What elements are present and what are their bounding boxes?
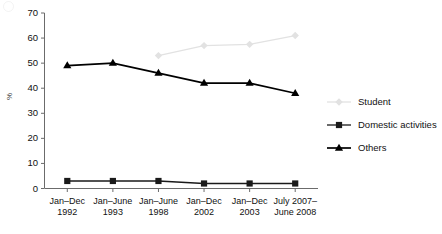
- square-marker-icon: [201, 180, 207, 186]
- legend-item-student[interactable]: Student: [326, 90, 438, 113]
- y-tick-label: 60: [14, 33, 38, 43]
- legend-swatch: [326, 95, 352, 109]
- x-tick-label: July 2007–June 2008: [264, 196, 326, 218]
- diamond-marker-icon: [335, 98, 342, 105]
- y-tick-label: 70: [14, 8, 38, 18]
- y-tick-label: 20: [14, 133, 38, 143]
- square-marker-icon: [110, 178, 116, 184]
- diamond-marker-icon: [155, 52, 162, 59]
- series-student: [155, 32, 299, 59]
- square-marker-icon: [336, 121, 342, 127]
- legend-swatch: [326, 118, 352, 132]
- y-tick-label: 10: [14, 158, 38, 168]
- y-tick-label: 30: [14, 108, 38, 118]
- chart-figure: % 010203040506070 Jan–Dec1992Jan–June199…: [0, 0, 442, 234]
- chart-legend: StudentDomestic activitiesOthers: [326, 90, 438, 159]
- legend-item-domestic-activities[interactable]: Domestic activities: [326, 113, 438, 136]
- y-tick-label: 50: [14, 58, 38, 68]
- diamond-marker-icon: [292, 32, 299, 39]
- x-tick-label-line2: June 2008: [264, 207, 326, 218]
- series-line: [67, 181, 295, 184]
- y-axis-ticks: [41, 13, 45, 189]
- square-marker-icon: [155, 178, 161, 184]
- y-tick-label: 0: [14, 184, 38, 194]
- square-marker-icon: [64, 178, 70, 184]
- series-domestic-activities: [64, 178, 298, 187]
- legend-item-others[interactable]: Others: [326, 136, 438, 159]
- x-axis-ticks: [67, 189, 295, 193]
- legend-label: Domestic activities: [358, 119, 437, 130]
- series-others: [63, 59, 299, 96]
- legend-label: Others: [358, 142, 387, 153]
- legend-swatch: [326, 141, 352, 155]
- y-tick-label: 40: [14, 83, 38, 93]
- series-line: [158, 36, 295, 56]
- data-series-layer: [63, 32, 299, 187]
- diamond-marker-icon: [246, 41, 253, 48]
- y-axis-label: %: [5, 90, 14, 104]
- legend-label: Student: [358, 96, 391, 107]
- x-tick-label-line1: July 2007–: [264, 196, 326, 207]
- square-marker-icon: [247, 180, 253, 186]
- triangle-marker-icon: [109, 59, 117, 66]
- diamond-marker-icon: [200, 42, 207, 49]
- square-marker-icon: [292, 180, 298, 186]
- series-line: [67, 63, 295, 93]
